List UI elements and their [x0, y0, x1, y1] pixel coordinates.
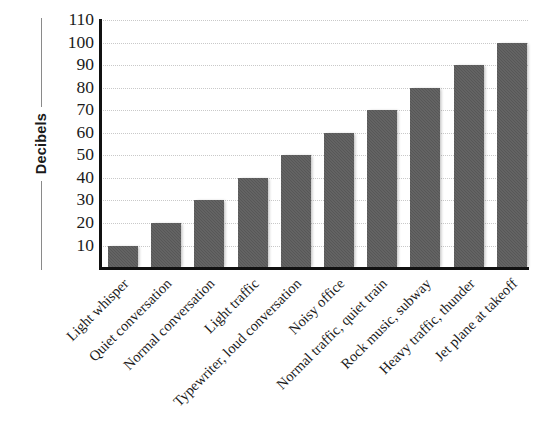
y-axis-tick-label: 110 [68, 11, 94, 29]
y-axis-tick-label: 30 [77, 191, 95, 209]
y-axis-title-rule-top [41, 18, 42, 107]
bar-chart: Decibels 110100908070605040302010 Light … [0, 0, 555, 448]
y-axis-tick-label: 100 [68, 34, 94, 52]
y-axis-title-rule-bottom [41, 181, 42, 270]
y-axis-tick-label: 10 [77, 237, 95, 255]
bar [324, 133, 354, 268]
y-axis-tick-label: 80 [77, 79, 95, 97]
y-axis-tick-label: 60 [77, 124, 95, 142]
bar [367, 110, 397, 268]
y-axis-title: Decibels [33, 107, 49, 180]
bar [194, 200, 224, 268]
bars-layer [101, 20, 528, 268]
x-axis-category-labels: Light whisperQuiet conversationNormal co… [0, 268, 555, 448]
bar [281, 155, 311, 268]
bar [454, 65, 484, 268]
y-axis-tick-label: 20 [77, 214, 95, 232]
y-axis-tick-labels: 110100908070605040302010 [54, 0, 98, 290]
y-axis-line [99, 19, 102, 269]
y-axis-tick-label: 50 [77, 146, 95, 164]
x-axis-category-label: Jet plane at takeoff [432, 276, 520, 364]
y-axis-title-group: Decibels [28, 18, 54, 270]
bar [151, 223, 181, 268]
bar [497, 43, 527, 269]
plot-area [101, 20, 528, 268]
y-axis-tick-label: 70 [77, 101, 95, 119]
bar [410, 88, 440, 268]
bar [108, 246, 138, 269]
y-axis-tick-label: 40 [77, 169, 95, 187]
y-axis-tick-label: 90 [77, 56, 95, 74]
bar [238, 178, 268, 268]
